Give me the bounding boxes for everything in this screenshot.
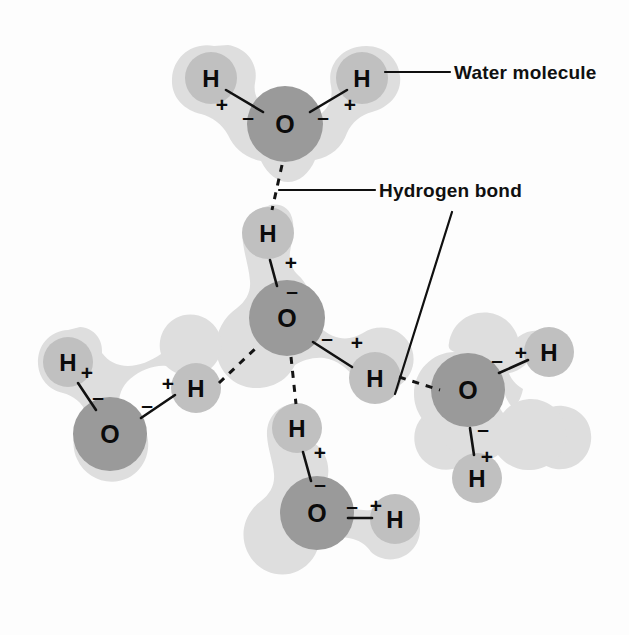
molecule-left-hydrogen-upper-label: H	[59, 349, 76, 376]
molecule-center-charge-plus-right: +	[351, 331, 363, 354]
molecule-top-charge-minus-left: –	[242, 105, 254, 128]
molecule-right-charge-minus-upper: –	[491, 348, 503, 371]
molecule-right-hydrogen-upper-label: H	[540, 339, 557, 366]
molecule-center-charge-minus-top: –	[286, 279, 298, 302]
molecule-top: H H O + – + –	[172, 45, 400, 182]
molecule-bottom-charge-plus-top: +	[314, 441, 326, 464]
molecule-top-hydrogen-right-label: H	[353, 65, 370, 92]
molecule-bottom-charge-plus-right: +	[370, 494, 382, 517]
molecule-left: H H O + – – +	[38, 314, 222, 481]
molecule-top-hydrogen-left-label: H	[202, 65, 219, 92]
molecule-center-hydrogen-top-label: H	[259, 220, 276, 247]
molecule-top-charge-plus-right: +	[344, 93, 356, 116]
molecule-top-charge-minus-right: –	[317, 105, 329, 128]
molecule-center-charge-minus-right: –	[321, 326, 333, 349]
diagram-canvas: H H O + – + – H H O + – – +	[0, 0, 629, 635]
molecule-right-charge-plus-upper: +	[515, 341, 527, 364]
molecule-right-oxygen-label: O	[458, 376, 477, 404]
molecule-right-hydrogen-lower-label: H	[468, 465, 485, 492]
molecule-top-oxygen-label: O	[275, 110, 294, 138]
label-water-molecule: Water molecule	[385, 62, 597, 83]
molecule-center-charge-plus-top: +	[285, 251, 297, 274]
molecule-bottom-charge-minus-top: –	[314, 472, 326, 495]
molecule-top-charge-plus-left: +	[216, 93, 228, 116]
molecule-right-charge-plus-lower: +	[481, 445, 493, 468]
molecule-bottom-hydrogen-top-label: H	[288, 415, 305, 442]
molecule-left-charge-minus-right: –	[141, 393, 153, 416]
molecule-center: H H O + – – +	[216, 205, 414, 404]
molecule-right: H H O – + – +	[414, 313, 591, 503]
molecule-bottom: H H O + – – +	[243, 403, 420, 574]
hydrogen-bond-label-text: Hydrogen bond	[379, 180, 522, 201]
water-hydrogen-bond-diagram: H H O + – + – H H O + – – +	[0, 0, 629, 635]
molecule-left-charge-plus-upper: +	[81, 361, 93, 384]
molecule-center-oxygen-label: O	[277, 304, 296, 332]
molecule-center-hydrogen-right-label: H	[366, 365, 383, 392]
molecule-bottom-oxygen-label: O	[307, 499, 326, 527]
water-molecule-label-text: Water molecule	[454, 62, 597, 83]
molecule-left-hydrogen-right-label: H	[187, 375, 204, 402]
molecule-left-oxygen-label: O	[100, 420, 119, 448]
molecule-bottom-charge-minus-right: –	[346, 494, 358, 517]
molecule-right-charge-minus-lower: –	[477, 417, 489, 440]
molecule-left-charge-plus-right: +	[162, 372, 174, 395]
molecule-left-charge-minus-upper: –	[92, 385, 104, 408]
molecule-bottom-hydrogen-right-label: H	[386, 506, 403, 533]
